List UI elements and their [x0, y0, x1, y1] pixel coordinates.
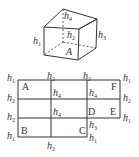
net-grid	[18, 80, 120, 137]
cube-label-h4: h4	[64, 11, 72, 22]
net-label-h1-bottomright: h1	[89, 133, 97, 144]
net-label-h2-left1: h2	[7, 93, 15, 104]
net-label-h4-mid2: h4	[89, 88, 97, 99]
net-point-C: C	[79, 126, 86, 136]
net-label-h2-left2: h2	[7, 112, 15, 123]
net-label-h1-bottomleft: h1	[7, 131, 15, 142]
net-label-h1-topleft: h1	[7, 73, 15, 84]
net-label-h3-right: h3	[89, 120, 97, 131]
net-label-h2-top2: h2	[83, 71, 91, 82]
net-point-B: B	[21, 126, 28, 136]
cube-label-h3: h3	[98, 30, 106, 41]
net-point-D: D	[88, 107, 95, 117]
net-point-F: F	[111, 82, 117, 92]
net-label-h1-right-lower: h1	[123, 113, 131, 124]
cube-label-A: A	[66, 47, 72, 57]
cube-label-h2: h2	[67, 30, 75, 41]
net-label-h2-top1: h2	[47, 71, 55, 82]
net-label-h2-right: h2	[123, 93, 131, 104]
net-label-h1-topright: h1	[123, 73, 131, 84]
net-label-h4-mid3: h4	[53, 107, 61, 118]
net-label-h4-mid1: h4	[53, 88, 61, 99]
net-point-E: E	[110, 107, 116, 117]
net-point-A: A	[22, 82, 29, 92]
cube-label-h1: h1	[33, 36, 41, 47]
net-label-h2-bottom: h2	[47, 141, 55, 152]
